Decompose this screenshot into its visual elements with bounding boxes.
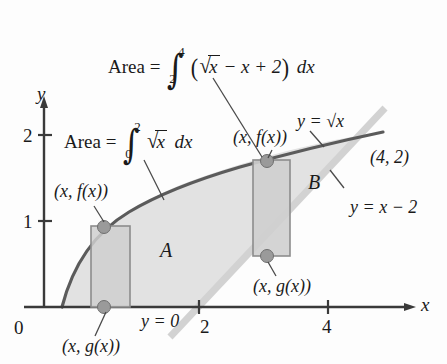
- upper-area-word: Area: [108, 56, 145, 77]
- representative-rectangle-b: [253, 160, 290, 256]
- x-axis-arrow: [404, 303, 416, 311]
- leader-left-top-point: [94, 206, 104, 222]
- intersection-point-label: (4, 2): [370, 148, 409, 166]
- lower-integral-symbol: ∫ 2 0: [121, 134, 141, 153]
- upper-equals-sign: =: [150, 56, 161, 77]
- point-dot-a-bottom: [98, 301, 111, 314]
- lower-differential: dx: [175, 131, 193, 152]
- leader-lower-integral-to-region-a: [144, 160, 164, 200]
- upper-integral-upper-limit: 4: [178, 45, 185, 58]
- sqrt-curve-label: y = √x: [297, 112, 344, 130]
- radical-sign-glyph: √: [147, 130, 159, 152]
- line-label: y = x − 2: [350, 198, 417, 216]
- area-between-curves-figure: Area = ∫ 4 2 (√x− x + 2) dx Area = ∫ 2 0…: [0, 0, 447, 364]
- upper-open-paren: (: [191, 55, 198, 81]
- y-axis-label: y: [37, 84, 45, 103]
- lower-area-word: Area: [64, 131, 101, 152]
- left-rect-bottom-point-label: (x, g(x)): [62, 337, 120, 355]
- x-axis-line-label: y = 0: [141, 312, 179, 330]
- representative-rectangle-a: [91, 226, 130, 307]
- upper-expression-rest: − x + 2: [224, 56, 282, 77]
- x-tick-label-2: 2: [200, 317, 210, 336]
- lower-area-expression: Area = ∫ 2 0 √x dx: [64, 130, 193, 153]
- upper-integral-lower-limit: 2: [169, 72, 176, 85]
- leader-right-bottom-point: [268, 262, 276, 276]
- x-tick-label-4: 4: [322, 317, 332, 336]
- x-axis-label: x: [421, 295, 429, 314]
- left-rect-top-point-label: (x, f(x)): [54, 182, 108, 200]
- origin-label: 0: [14, 318, 24, 337]
- radical-sign-glyph: √: [200, 55, 212, 77]
- lower-equals-sign: =: [106, 131, 117, 152]
- y-tick-label-2: 2: [23, 126, 33, 145]
- point-dot-a-top: [98, 221, 111, 234]
- leader-left-bottom-point: [95, 312, 106, 336]
- leader-line-label: [330, 170, 344, 188]
- upper-differential: dx: [297, 56, 315, 77]
- point-dot-b-bottom: [261, 250, 274, 263]
- region-label-b: B: [308, 172, 320, 192]
- lower-integral-lower-limit: 0: [125, 147, 132, 160]
- upper-close-paren: ): [282, 55, 289, 81]
- upper-sqrt-group: √x: [199, 55, 220, 77]
- upper-area-expression: Area = ∫ 4 2 (√x− x + 2) dx: [108, 55, 315, 81]
- y-tick-label-1: 1: [23, 212, 33, 231]
- region-label-a: A: [160, 240, 172, 260]
- upper-integral-symbol: ∫ 4 2: [165, 59, 185, 78]
- point-dot-b-top: [261, 155, 274, 168]
- right-rect-top-point-label: (x, f(x)): [233, 128, 287, 146]
- lower-integral-upper-limit: 2: [134, 120, 141, 133]
- right-rect-bottom-point-label: (x, g(x)): [253, 277, 311, 295]
- lower-sqrt-group: √x: [146, 130, 167, 152]
